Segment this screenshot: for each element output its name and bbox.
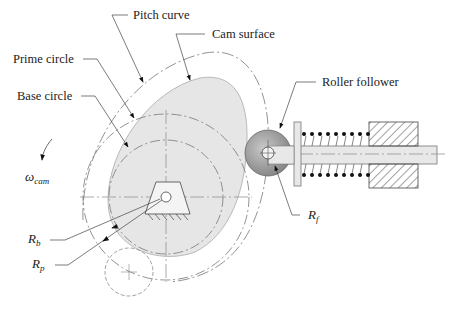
cam-diagram: Pitch curve Cam surface Prime circle Bas… bbox=[0, 0, 451, 315]
rb-label: Rb bbox=[27, 231, 41, 248]
prime-circle-leader bbox=[83, 59, 134, 118]
pitch-curve-label: Pitch curve bbox=[133, 8, 190, 22]
guide-block-bottom bbox=[369, 164, 418, 188]
pitch-curve-leader bbox=[112, 15, 143, 82]
rotation-arrow-icon bbox=[42, 139, 52, 160]
follower-flange bbox=[294, 122, 301, 186]
base-circle-label: Base circle bbox=[17, 89, 73, 103]
rp-label: Rp bbox=[31, 256, 45, 273]
omega-cam-label: ωcam bbox=[25, 169, 50, 186]
rf-label: Rf bbox=[307, 207, 320, 224]
cam-surface-label: Cam surface bbox=[212, 27, 275, 41]
cam-shaft bbox=[161, 192, 171, 202]
prime-circle-label: Prime circle bbox=[13, 52, 74, 66]
base-circle-leader bbox=[81, 96, 128, 147]
cam-body bbox=[108, 77, 247, 256]
roller-follower-label: Roller follower bbox=[322, 75, 400, 89]
roller-follower-leader bbox=[280, 82, 316, 128]
guide-block-top bbox=[369, 122, 418, 146]
